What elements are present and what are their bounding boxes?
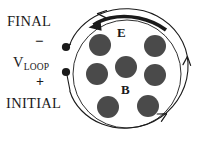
field-dot: [144, 35, 166, 57]
loop-arrowhead-right-icon: [183, 57, 191, 66]
label-positive-terminal-sign: +: [36, 75, 44, 89]
label-e-field: E: [117, 26, 126, 39]
label-v-loop: VLOOP: [13, 55, 49, 70]
label-v-loop-main: V: [13, 54, 24, 70]
figure-canvas: FINAL − VLOOP + INITIAL E B: [0, 0, 203, 143]
label-negative-terminal-sign: −: [35, 34, 44, 49]
field-dot: [97, 96, 119, 118]
field-dot: [144, 64, 166, 86]
magnetic-field-dots: [86, 34, 166, 118]
label-final: FINAL: [7, 14, 51, 29]
label-initial: INITIAL: [6, 96, 61, 111]
terminal-leads: [67, 44, 71, 91]
field-dot: [137, 95, 159, 117]
field-dot: [115, 56, 137, 78]
label-b-field: B: [121, 83, 130, 96]
loop-arrowhead-top-icon: [98, 11, 107, 18]
label-v-loop-subscript: LOOP: [24, 62, 50, 72]
terminal-dot-positive: [62, 68, 70, 76]
terminal-dot-negative: [62, 43, 70, 51]
field-dot: [89, 34, 111, 56]
e-field-arrow: [89, 17, 167, 31]
field-dot: [86, 63, 108, 85]
